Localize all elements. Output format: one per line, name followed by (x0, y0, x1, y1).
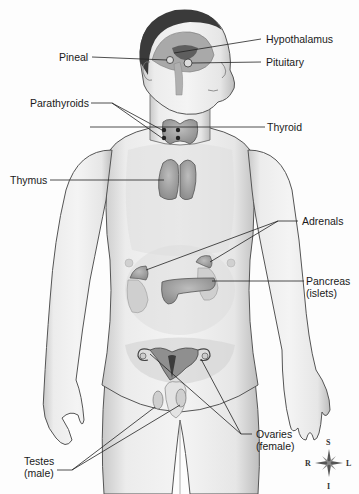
label-pituitary: Pituitary (266, 56, 304, 68)
compass-inferior: I (327, 482, 330, 491)
parathyroid-gland (162, 128, 166, 132)
pituitary-gland (184, 59, 192, 67)
right-arm (43, 150, 112, 445)
thymus-gland (159, 159, 196, 199)
testis (176, 389, 186, 407)
compass-left: L (346, 459, 351, 468)
parathyroid-gland (176, 128, 180, 132)
label-thymus: Thymus (10, 174, 47, 186)
endocrine-diagram: S I R L Pineal Hypothalamus Pituitary Pa… (0, 0, 359, 494)
label-pancreas: Pancreas (islets) (306, 275, 350, 299)
parathyroid-gland (176, 136, 180, 140)
compass-superior: S (326, 438, 331, 447)
ovary (140, 353, 146, 359)
label-adrenals: Adrenals (302, 215, 343, 227)
label-parathyroids: Parathyroids (30, 97, 89, 109)
label-ovaries: Ovaries (female) (256, 428, 295, 452)
parathyroid-gland (162, 136, 166, 140)
label-pineal: Pineal (59, 51, 88, 63)
label-hypothalamus: Hypothalamus (266, 33, 333, 45)
compass-right: R (305, 459, 311, 468)
head (140, 9, 235, 114)
body-illustration: S I R L (0, 0, 359, 494)
pineal-gland (167, 57, 174, 64)
label-testes: Testes (male) (24, 455, 54, 479)
ovary (202, 353, 208, 359)
label-thyroid: Thyroid (267, 121, 302, 133)
testis (153, 391, 163, 409)
orientation-compass: S I R L (305, 438, 351, 491)
